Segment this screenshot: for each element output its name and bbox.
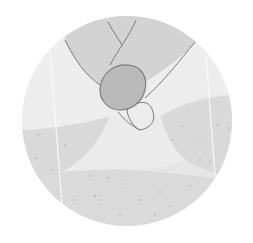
illustration-stage: Circular close-up of a fingertip touchin…: [0, 0, 253, 243]
circle-scene: [0, 0, 253, 243]
fingertip-illustration: [0, 0, 253, 243]
lower-band: [0, 170, 253, 243]
